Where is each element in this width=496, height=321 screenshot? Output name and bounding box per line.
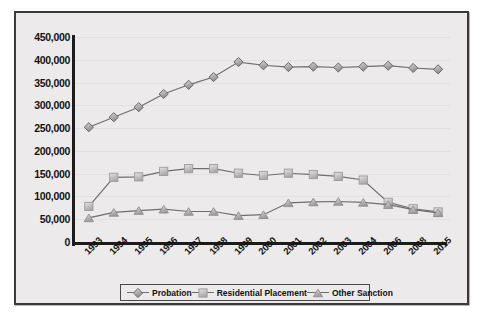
data-point-marker (209, 165, 217, 173)
square-marker-icon (192, 287, 214, 298)
series-plot (16, 13, 471, 307)
legend-item-label: Other Sanction (332, 288, 393, 298)
data-point-marker (334, 63, 343, 72)
plot-area: 450,000400,000350,000300,000250,000200,0… (16, 13, 467, 303)
data-point-marker (84, 214, 93, 222)
data-point-marker (234, 57, 243, 66)
data-point-marker (159, 89, 168, 98)
series-line (89, 62, 438, 127)
legend-item-probation[interactable]: Probation (127, 287, 192, 298)
data-point-marker (160, 167, 168, 175)
data-point-marker (284, 62, 293, 71)
data-point-marker (309, 170, 317, 178)
data-point-marker (313, 289, 322, 297)
data-point-marker (334, 172, 342, 180)
data-point-marker (135, 173, 143, 181)
data-point-marker (110, 173, 118, 181)
data-point-marker (259, 61, 268, 70)
data-point-marker (359, 176, 367, 184)
diamond-marker-icon (127, 287, 149, 298)
legend-item-residential-placement[interactable]: Residential Placement (192, 287, 307, 298)
triangle-marker-icon (307, 287, 329, 298)
data-point-marker (284, 169, 292, 177)
data-point-marker (409, 63, 418, 72)
data-point-marker (384, 61, 393, 70)
chart-legend: ProbationResidential PlacementOther Sanc… (120, 284, 370, 301)
data-point-marker (199, 288, 207, 296)
data-point-marker (309, 62, 318, 71)
data-point-marker (234, 169, 242, 177)
data-point-marker (359, 62, 368, 71)
data-point-marker (259, 171, 267, 179)
data-point-marker (85, 202, 93, 210)
data-point-marker (185, 165, 193, 173)
data-point-marker (134, 103, 143, 112)
data-point-marker (84, 123, 93, 132)
data-point-marker (209, 72, 218, 81)
legend-item-other-sanction[interactable]: Other Sanction (307, 287, 393, 298)
chart-frame: 450,000400,000350,000300,000250,000200,0… (14, 11, 469, 305)
data-point-marker (184, 80, 193, 89)
data-point-marker (434, 65, 443, 74)
series-probation (84, 57, 442, 131)
data-point-marker (133, 288, 142, 297)
legend-item-label: Residential Placement (217, 288, 307, 298)
data-point-marker (109, 113, 118, 122)
legend-item-label: Probation (152, 288, 192, 298)
